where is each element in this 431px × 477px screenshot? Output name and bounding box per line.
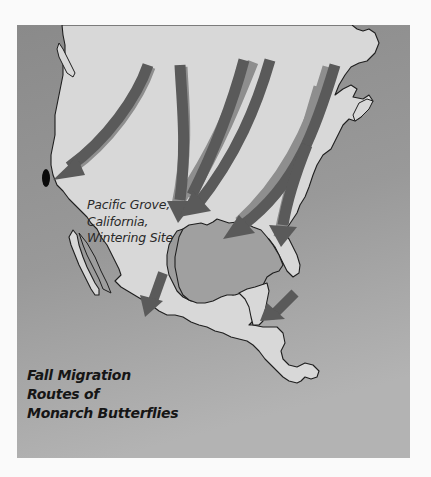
map-title-line-2: Routes of <box>27 385 178 404</box>
arrow-central-route-1 <box>180 65 184 200</box>
site-label-line-3: Wintering Site <box>87 230 173 247</box>
map-title-line-3: Monarch Butterflies <box>27 404 178 423</box>
site-label-line-2: California, <box>87 214 173 231</box>
site-label-line-1: Pacific Grove, <box>87 197 173 214</box>
wintering-site-label: Pacific Grove, California, Wintering Sit… <box>87 197 173 247</box>
pacific-grove-wintering-site <box>42 169 50 187</box>
map-title-line-1: Fall Migration <box>27 366 178 385</box>
map-title: Fall Migration Routes of Monarch Butterf… <box>27 366 178 423</box>
